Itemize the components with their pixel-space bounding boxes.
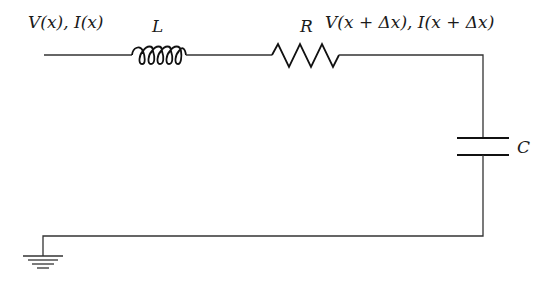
inductor-label: L <box>152 18 163 35</box>
output-node-label: V(x + Δx), I(x + Δx) <box>325 14 494 31</box>
circuit-diagram: V(x), I(x) L R V(x + Δx), I(x + Δx) C <box>0 0 553 288</box>
capacitor-icon <box>457 138 509 155</box>
capacitor-label: C <box>517 139 530 156</box>
return-wire <box>43 155 483 256</box>
resistor-icon <box>272 44 339 67</box>
inductor-icon <box>132 47 186 65</box>
resistor-label: R <box>300 18 313 35</box>
output-wire <box>339 55 483 138</box>
input-node-label: V(x), I(x) <box>28 14 104 31</box>
circuit-schematic <box>0 0 553 288</box>
ground-icon <box>23 256 63 268</box>
